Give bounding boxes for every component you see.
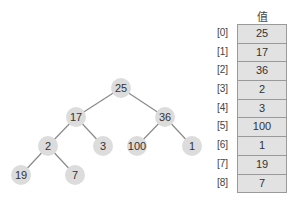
array-row: [3] 2 bbox=[237, 80, 287, 99]
node-value: 3 bbox=[100, 140, 106, 152]
binary-tree-diagram: 251736231001197 bbox=[0, 0, 230, 205]
tree-node: 7 bbox=[65, 165, 85, 185]
array-cell: 19 bbox=[237, 155, 287, 175]
array-index: [8] bbox=[217, 174, 235, 193]
node-value: 7 bbox=[72, 169, 78, 181]
array-cell: 7 bbox=[237, 174, 287, 194]
array-cell: 17 bbox=[237, 43, 287, 63]
array-row: [5] 100 bbox=[237, 117, 287, 136]
array-row: [1] 17 bbox=[237, 43, 287, 62]
array-row: [2] 36 bbox=[237, 61, 287, 80]
array-row: [8] 7 bbox=[237, 174, 287, 193]
array-cell: 3 bbox=[237, 99, 287, 119]
tree-node: 19 bbox=[11, 165, 31, 185]
array-index: [1] bbox=[217, 43, 235, 62]
array-row: [6] 1 bbox=[237, 136, 287, 155]
array-header: 值 bbox=[237, 8, 287, 22]
array-index: [5] bbox=[217, 117, 235, 136]
node-value: 36 bbox=[159, 111, 171, 123]
array-cell: 2 bbox=[237, 80, 287, 100]
array-row: [7] 19 bbox=[237, 155, 287, 174]
node-value: 17 bbox=[70, 111, 82, 123]
array-row: [4] 3 bbox=[237, 99, 287, 118]
array-cell: 25 bbox=[237, 24, 287, 44]
tree-edges bbox=[21, 88, 192, 175]
array-index: [3] bbox=[217, 80, 235, 99]
array-cell: 100 bbox=[237, 117, 287, 137]
array-row: [0] 25 bbox=[237, 24, 287, 43]
tree-node: 100 bbox=[127, 136, 147, 156]
array-index: [4] bbox=[217, 99, 235, 118]
array-index: [0] bbox=[217, 24, 235, 43]
tree-node: 2 bbox=[38, 136, 58, 156]
array-index: [7] bbox=[217, 155, 235, 174]
node-value: 1 bbox=[189, 140, 195, 152]
array-index: [2] bbox=[217, 61, 235, 80]
array-cell: 1 bbox=[237, 136, 287, 156]
node-value: 19 bbox=[15, 169, 27, 181]
node-value: 100 bbox=[128, 140, 146, 152]
node-value: 25 bbox=[115, 82, 127, 94]
array-table: [0] 25 [1] 17 [2] 36 [3] 2 [4] 3 [5] 100… bbox=[237, 24, 287, 192]
node-value: 2 bbox=[45, 140, 51, 152]
tree-node: 36 bbox=[155, 107, 175, 127]
array-cell: 36 bbox=[237, 61, 287, 81]
tree-node: 17 bbox=[66, 107, 86, 127]
tree-node: 25 bbox=[111, 78, 131, 98]
tree-nodes: 251736231001197 bbox=[11, 78, 202, 185]
tree-node: 1 bbox=[182, 136, 202, 156]
array-index: [6] bbox=[217, 136, 235, 155]
tree-node: 3 bbox=[93, 136, 113, 156]
